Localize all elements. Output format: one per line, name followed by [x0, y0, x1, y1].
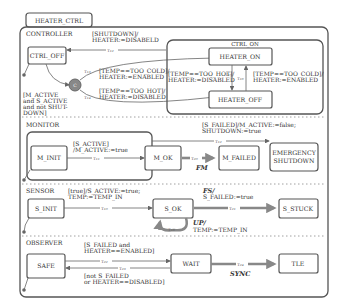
transition-id: τ₁₀ [101, 205, 108, 211]
guard-text: or HEATER==DISABLED] [84, 278, 165, 285]
statechart-diagram: HEATER_CTRL CONTROLLER CTRL_OFF C [M_ACT… [0, 0, 340, 307]
region-sensor: SENSOR S_INIT [true]/S_ACTIVE:=true; TEM… [22, 187, 318, 234]
transition-id: τ₂₀ [191, 155, 198, 161]
region-label-observer: OBSERVER [26, 239, 63, 246]
event-label: SYNC [230, 270, 251, 278]
transition-id: τ₁₂ [107, 47, 114, 53]
transition-id: τ₂₂ [101, 258, 108, 264]
transition-id: τ₁₂ [215, 138, 222, 144]
guard-text: HEATER:=DISABELD [92, 36, 159, 43]
guard-text: HEATER:=DISABLED [168, 76, 235, 83]
region-label-sensor: SENSOR [26, 187, 54, 194]
transition-id: τ₁₃ [84, 68, 91, 74]
region-observer: OBSERVER SAFE [S_FAILED and HEATER==ENAB… [22, 239, 318, 292]
state-tle-label: TLE [292, 260, 305, 267]
guard-text: SHUTDOWN:=true [202, 127, 262, 134]
state-wait-label: WAIT [182, 260, 200, 267]
guard-text: HEATER==ENABLED] [84, 247, 154, 254]
guard-text: /M_ACTIVE:=true [73, 146, 128, 154]
region-label-controller: CONTROLLER [26, 30, 73, 37]
state-s-init-label: S_INIT [35, 205, 58, 213]
diagram-title: HEATER_CTRL [35, 17, 83, 25]
guard-text: TEMP:=TEMP_IN [193, 226, 248, 234]
transition-id: τ₁₅ [225, 71, 232, 77]
guard-text: HEATER:=DISABLED [99, 93, 166, 100]
transition-id: τ₁₈ [168, 226, 175, 232]
state-ctrl-on-label: CTRL_ON [231, 41, 259, 48]
guard-text: DOWN] [23, 109, 47, 116]
transition-id: τ₂₄ [237, 261, 244, 267]
state-s-stuck-label: S_STUCK [283, 205, 314, 213]
guard-text: S_FAILED:=true [203, 193, 254, 201]
title-tab: HEATER_CTRL [26, 13, 92, 27]
state-ctrl-off-label: CTRL_OFF [30, 52, 65, 60]
state-heater-on-label: HEATER_ON [220, 53, 262, 61]
state-m-failed-label: M_FAILED [222, 154, 256, 162]
state-emergency-label: EMERGENCY [272, 149, 317, 156]
state-m-ok-label: M_OK [153, 154, 173, 162]
guard-text: TEMP:=TEMP_IN [68, 193, 123, 201]
state-safe-label: SAFE [37, 262, 55, 269]
event-label: FM [195, 164, 209, 172]
transition-id: τ₁₁ [93, 155, 100, 161]
guard-text: HEATER:=ENABLED [99, 73, 164, 80]
state-heater-off-label: HEATER_OFF [218, 96, 263, 104]
transition-id: τ₁₆ [237, 75, 244, 81]
transition-id: τ₂₃ [119, 265, 126, 271]
region-monitor: MONITOR M_INIT M_OK [S_ACTIVE] /M_ACTIVE… [22, 121, 318, 182]
state-s-ok-label: S_OK [164, 205, 181, 213]
region-label-monitor: MONITOR [26, 121, 59, 128]
state-emergency-label: SHUTDOWN [274, 157, 315, 164]
transition-id: τ₂₁ [229, 205, 236, 211]
region-controller: CONTROLLER CTRL_OFF C [M_ACTIVE and S_AC… [22, 30, 324, 116]
state-m-init-label: M_INIT [37, 154, 62, 162]
choice-label: C [73, 83, 77, 88]
guard-text: HEATER:=ENABLED [253, 76, 318, 83]
